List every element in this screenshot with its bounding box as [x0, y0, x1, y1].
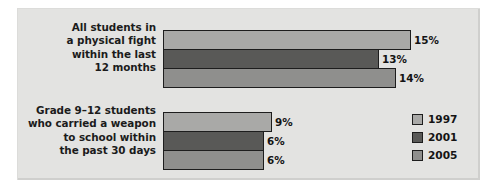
bar-group1-2001	[163, 131, 264, 151]
legend-swatch-icon-2005	[412, 150, 423, 161]
category-label-students-carried-weapon: Grade 9–12 students who carried a weapon…	[14, 104, 156, 157]
legend-label-2005: 2005	[428, 149, 458, 161]
category-label-line: who carried a weapon	[14, 117, 156, 130]
panel-right-edge	[478, 9, 480, 180]
legend-item-1997: 1997	[412, 110, 458, 128]
bar-value-group0-2005: 14%	[399, 72, 424, 84]
category-label-line: within the last	[24, 48, 156, 61]
category-label-students-physical-fight: All students in a physical fight within …	[24, 21, 156, 74]
bar-group1-1997	[163, 112, 272, 132]
bar-value-group1-1997: 9%	[275, 116, 293, 128]
category-label-line: All students in	[24, 21, 156, 34]
legend-label-1997: 1997	[428, 113, 458, 125]
bar-value-group1-2001: 6%	[267, 135, 285, 147]
category-label-line: the past 30 days	[14, 144, 156, 157]
bar-value-group0-1997: 15%	[414, 34, 439, 46]
bar-group0-2005	[163, 68, 396, 88]
legend-label-2001: 2001	[428, 131, 458, 143]
bar-group0-2001	[163, 49, 379, 69]
category-label-line: to school within	[14, 131, 156, 144]
bar-value-group0-2001: 13%	[382, 53, 407, 65]
legend-item-2005: 2005	[412, 146, 458, 164]
chart-legend: 1997 2001 2005	[412, 110, 458, 164]
category-label-line: Grade 9–12 students	[14, 104, 156, 117]
bar-group0-1997	[163, 30, 411, 50]
bar-group1-2005	[163, 150, 264, 170]
legend-item-2001: 2001	[412, 128, 458, 146]
bar-value-group1-2005: 6%	[267, 154, 285, 166]
legend-swatch-icon-1997	[412, 114, 423, 125]
bar-chart-figure: All students in a physical fight within …	[0, 0, 498, 193]
category-label-line: a physical fight	[24, 34, 156, 47]
category-label-line: 12 months	[24, 61, 156, 74]
legend-swatch-icon-2001	[412, 132, 423, 143]
panel-bottom-edge	[18, 178, 479, 180]
